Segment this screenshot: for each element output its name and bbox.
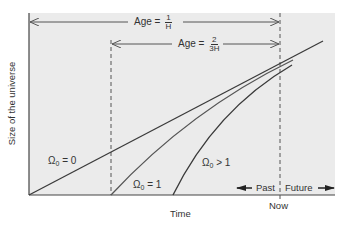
fraction-1-over-h: 1 H — [165, 14, 171, 31]
relation: = 0 — [62, 155, 76, 166]
curve-omega-one — [111, 60, 293, 195]
age-prefix: Age = — [134, 16, 160, 27]
now-label: Now — [269, 200, 288, 211]
subscript: 0 — [55, 160, 59, 167]
x-axis-label: Time — [170, 208, 191, 219]
age-one-over-h-label: Age = 1 H — [131, 14, 175, 31]
label-omega-zero: Ω0 = 0 — [48, 155, 76, 167]
fraction-2-over-3h: 2 3H — [209, 36, 219, 53]
denominator: H — [166, 23, 172, 31]
label-omega-greater-one: Ω0 > 1 — [202, 157, 230, 169]
age-prefix: Age = — [178, 38, 204, 49]
past-label: Past — [256, 182, 275, 193]
subscript: 0 — [140, 184, 144, 191]
curve-omega-greater-one — [173, 65, 292, 195]
future-label: Future — [285, 182, 312, 193]
curve-omega-zero — [29, 41, 323, 195]
y-axis-label: Size of the universe — [6, 49, 17, 159]
denominator: 3H — [209, 45, 219, 53]
relation: = 1 — [147, 179, 161, 190]
subscript: 0 — [209, 162, 213, 169]
label-omega-one: Ω0 = 1 — [133, 179, 161, 191]
age-two-over-three-h-label: Age = 2 3H — [175, 36, 222, 53]
relation: > 1 — [216, 157, 230, 168]
